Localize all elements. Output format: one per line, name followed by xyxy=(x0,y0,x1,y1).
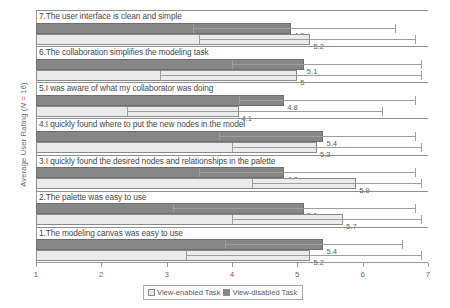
error-bar-cap xyxy=(252,179,253,188)
error-bar-cap xyxy=(219,132,220,141)
bar-group: 5.I was aware of what my collaborator wa… xyxy=(36,82,428,118)
question-label: 1.The modeling canvas was easy to use xyxy=(39,228,183,238)
error-bar-cap xyxy=(415,96,416,105)
error-bar-line xyxy=(219,136,415,137)
error-bar-cap xyxy=(232,215,233,224)
error-bar-cap xyxy=(193,24,194,33)
question-label: 7.The user interface is clean and simple xyxy=(39,11,182,21)
legend-item-view-enabled: View-enabled Task xyxy=(148,288,220,297)
error-bar-cap xyxy=(127,107,128,116)
error-bar-cap xyxy=(415,35,416,44)
bar-with-error: 5.3 xyxy=(36,142,428,153)
x-axis-tick xyxy=(101,263,102,267)
bar-with-error: 4.8 xyxy=(36,167,428,178)
x-axis-tick-label: 3 xyxy=(157,270,177,279)
bar-chart: Average User Rating (N = 16) 1234567 7.T… xyxy=(0,0,450,308)
error-bar-cap xyxy=(239,96,240,105)
question-label: 3.I quickly found the desired nodes and … xyxy=(39,156,275,166)
bar-group: 7.The user interface is clean and simple… xyxy=(36,10,428,46)
x-axis-tick xyxy=(36,263,37,267)
y-axis-title: Average User Rating (N = 16) xyxy=(19,35,28,235)
error-bar-line xyxy=(173,208,415,209)
error-bar-line xyxy=(232,64,421,65)
bar-group: 4.I quickly found where to put the new n… xyxy=(36,118,428,154)
error-bar-cap xyxy=(415,204,416,213)
error-bar-line xyxy=(252,183,422,184)
x-axis-tick xyxy=(363,263,364,267)
bar-value-label: 5.2 xyxy=(313,258,324,267)
legend-label: View-disabled Task xyxy=(232,288,297,297)
error-bar-line xyxy=(127,111,382,112)
x-axis-tick xyxy=(232,263,233,267)
error-bar-cap xyxy=(421,215,422,224)
bar-with-error: 5.7 xyxy=(36,214,428,225)
error-bar-cap xyxy=(395,24,396,33)
error-bar-line xyxy=(199,172,415,173)
bar-with-error: 5 xyxy=(36,70,428,81)
error-bar-cap xyxy=(415,132,416,141)
x-axis-tick-label: 1 xyxy=(26,270,46,279)
legend-label: View-enabled Task xyxy=(157,288,220,297)
question-label: 6.The collaboration simplifies the model… xyxy=(39,47,209,57)
error-bar-cap xyxy=(421,71,422,80)
question-label: 4.I quickly found where to put the new n… xyxy=(39,119,245,129)
bar-with-error: 5.1 xyxy=(36,59,428,70)
error-bar-cap xyxy=(382,107,383,116)
legend-swatch-icon xyxy=(148,289,155,296)
bar-group: 1.The modeling canvas was easy to use5.4… xyxy=(36,227,428,263)
bar-with-error: 5.2 xyxy=(36,250,428,261)
legend-item-view-disabled: View-disabled Task xyxy=(223,288,297,297)
y-axis-title-post: = 16) xyxy=(19,82,28,103)
error-bar-cap xyxy=(199,35,200,44)
x-axis-tick xyxy=(297,263,298,267)
question-label: 2.The palette was easy to use xyxy=(39,192,146,202)
error-bar-line xyxy=(232,147,421,148)
error-bar-line xyxy=(193,28,396,29)
error-bar-line xyxy=(160,75,421,76)
x-axis-tick xyxy=(428,263,429,267)
error-bar-line xyxy=(186,255,421,256)
error-bar-cap xyxy=(199,168,200,177)
bar-with-error: 5.1 xyxy=(36,203,428,214)
error-bar-cap xyxy=(402,240,403,249)
bar-with-error: 4.8 xyxy=(36,95,428,106)
error-bar-cap xyxy=(421,60,422,69)
bar-with-error: 4.9 xyxy=(36,23,428,34)
bar-with-error: 4.1 xyxy=(36,106,428,117)
bar-group: 3.I quickly found the desired nodes and … xyxy=(36,155,428,191)
error-bar-line xyxy=(225,244,401,245)
error-bar-cap xyxy=(421,251,422,260)
error-bar-line xyxy=(232,219,421,220)
error-bar-cap xyxy=(186,251,187,260)
question-label: 5.I was aware of what my collaborator wa… xyxy=(39,83,213,93)
x-axis-tick-label: 5 xyxy=(287,270,307,279)
x-axis-tick xyxy=(167,263,168,267)
error-bar-cap xyxy=(232,143,233,152)
bar-with-error: 5.9 xyxy=(36,178,428,189)
error-bar-cap xyxy=(415,168,416,177)
bar-with-error: 5.4 xyxy=(36,239,428,250)
chart-legend: View-enabled Task View-disabled Task xyxy=(143,285,303,300)
error-bar-cap xyxy=(160,71,161,80)
x-axis-tick-label: 6 xyxy=(353,270,373,279)
bar-group: 6.The collaboration simplifies the model… xyxy=(36,46,428,82)
error-bar-cap xyxy=(232,60,233,69)
y-axis-title-pre: Average User Rating ( xyxy=(19,108,28,186)
bar-with-error: 5.4 xyxy=(36,131,428,142)
x-axis-tick-label: 7 xyxy=(418,270,438,279)
error-bar-cap xyxy=(173,204,174,213)
plot-area: 1234567 7.The user interface is clean an… xyxy=(36,10,428,263)
x-axis-tick-label: 2 xyxy=(91,270,111,279)
y-axis-title-italic: N xyxy=(19,103,28,109)
error-bar-line xyxy=(239,100,415,101)
error-bar-cap xyxy=(225,240,226,249)
bar-with-error: 5.2 xyxy=(36,34,428,45)
error-bar-cap xyxy=(421,143,422,152)
legend-swatch-icon xyxy=(223,289,230,296)
x-axis-tick-label: 4 xyxy=(222,270,242,279)
bar-group: 2.The palette was easy to use5.15.7 xyxy=(36,191,428,227)
error-bar-cap xyxy=(421,179,422,188)
error-bar-line xyxy=(199,39,415,40)
